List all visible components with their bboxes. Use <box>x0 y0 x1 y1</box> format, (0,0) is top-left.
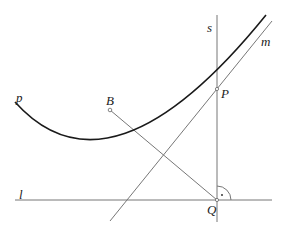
line-m <box>110 21 272 221</box>
point-P <box>215 87 218 90</box>
label-P: P <box>220 86 229 101</box>
label-s: s <box>207 20 212 35</box>
label-p: p <box>15 90 23 105</box>
label-B: B <box>106 93 114 108</box>
diagram-canvas: s m p B P l Q <box>0 0 285 231</box>
label-l: l <box>19 187 23 202</box>
right-angle-dot <box>221 194 223 196</box>
label-Q: Q <box>207 202 217 217</box>
geometry-diagram: s m p B P l Q <box>0 0 285 231</box>
right-angle-marker <box>217 186 231 200</box>
parabola-p <box>15 15 266 140</box>
label-m: m <box>261 34 270 49</box>
point-B <box>108 108 112 112</box>
segment-BQ <box>110 110 217 200</box>
